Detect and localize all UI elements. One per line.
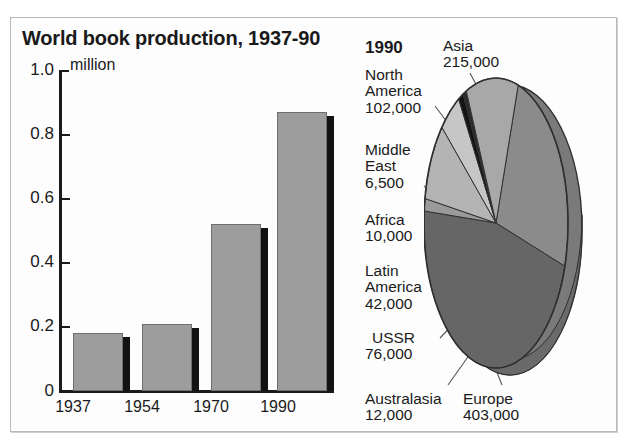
pie-slice-group [424,78,568,368]
bar-shadow-1970 [261,228,268,391]
callout-europe: Europe 403,000 [463,391,519,424]
bar-shadow-1937 [123,337,130,391]
callout-middle-east: Middle East 6,500 [365,142,411,191]
pie-graphic [424,63,609,393]
bar-shadow-1954 [192,328,199,391]
bar-1970 [211,224,261,391]
callout-value: 42,000 [365,296,422,312]
bar-1937 [73,333,123,391]
bar-1990 [277,112,327,391]
callout-name: USSR [372,329,415,346]
screenshot-root: World book production, 1937-90 million 1… [0,0,627,444]
bar-chart-panel: World book production, 1937-90 million 1… [0,0,352,444]
pie-svg [424,63,609,393]
callout-value: 76,000 [365,346,415,362]
callout-value: 10,000 [365,228,412,244]
callout-value: 12,000 [365,407,442,423]
pie-chart-panel: 1990 North America 102,000 Middle East 6… [352,0,627,444]
chart-title: World book production, 1937-90 [22,27,320,50]
bar-shadow-1990 [327,116,334,391]
pie-year-label: 1990 [365,38,403,58]
y-tick-label: 1.0 [10,60,54,80]
callout-name-line1: Middle [365,141,411,158]
x-tick-label-1970: 1970 [181,398,241,416]
x-tick-label-1990: 1990 [248,398,308,416]
callout-latin-america: Latin America 42,000 [365,263,422,312]
callout-name-line2: America [365,82,422,99]
callout-name: Asia [443,37,473,54]
callout-value: 6,500 [365,175,411,191]
callout-africa: Africa 10,000 [365,212,412,245]
callout-ussr: USSR 76,000 [372,330,415,363]
callout-name-line2: East [365,157,396,174]
callout-name: Africa [365,211,405,228]
x-tick-label-1954: 1954 [112,398,172,416]
callout-value: 403,000 [463,407,519,423]
callout-name-line1: Latin [365,262,399,279]
callout-value: 102,000 [365,100,422,116]
bar-plot-area [62,70,334,391]
callout-name-line2: America [365,278,422,295]
callout-australasia: Australasia 12,000 [365,391,442,424]
callout-north-america: North America 102,000 [365,67,422,116]
y-tick-label: 0.8 [10,124,54,144]
bar-1954 [142,324,192,391]
y-tick-label: 0.4 [10,252,54,272]
y-tick-label: 0.6 [10,188,54,208]
callout-name-line1: North [365,66,403,83]
x-tick-label-1937: 1937 [43,398,103,416]
y-tick-label: 0.2 [10,316,54,336]
